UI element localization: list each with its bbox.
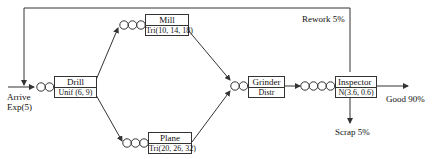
mill-station: Mill Tri(10, 14, 18): [145, 14, 189, 36]
plane-station-dist: Tri(20, 26, 32): [149, 144, 191, 154]
plane-queue-slot: [131, 139, 139, 147]
grinder-station-name: Grinder: [249, 77, 284, 88]
inspector-queue-slot: [326, 82, 334, 90]
plane-queue-slot: [140, 139, 148, 147]
plane-queue-slot: [123, 139, 131, 147]
drill-station-name: Drill: [55, 77, 96, 88]
inspector-station: Inspector N(3.6, 0.6): [335, 76, 377, 98]
mill-station-dist: Tri(10, 14, 18): [146, 26, 188, 36]
mill-queue-slot: [137, 21, 145, 29]
drill-station-dist: Unif (6, 9): [55, 88, 96, 98]
arrival-label: Arrive: [7, 92, 31, 102]
plane-station: Plane Tri(20, 26, 32): [148, 132, 192, 154]
inspector-queue-slot: [309, 82, 317, 90]
good-label: Good 90%: [386, 94, 425, 104]
inspector-station-name: Inspector: [336, 77, 376, 88]
grinder-station-dist: Distr: [249, 88, 284, 98]
drill-to-plane-line: [96, 95, 122, 141]
drill-queue-slot: [45, 83, 53, 91]
arrival-dist-label: Exp(5): [7, 102, 32, 112]
plane-to-grinder-line: [192, 91, 230, 142]
inspector-queue-slot: [318, 82, 326, 90]
plane-station-name: Plane: [149, 133, 191, 144]
inspector-queue-slot: [301, 82, 309, 90]
grinder-station: Grinder Distr: [248, 76, 285, 98]
grinder-queue-slot: [239, 82, 247, 90]
mill-queue-slot: [120, 21, 128, 29]
mill-queue-slot: [128, 21, 136, 29]
grinder-queue-slot: [231, 82, 239, 90]
mill-to-grinder-line: [188, 30, 230, 80]
drill-queue-slot: [37, 83, 45, 91]
inspector-station-dist: N(3.6, 0.6): [336, 88, 376, 98]
rework-label: Rework 5%: [302, 14, 345, 24]
mill-station-name: Mill: [146, 15, 188, 26]
scrap-label: Scrap 5%: [335, 127, 370, 137]
drill-to-mill-line: [96, 28, 118, 80]
drill-station: Drill Unif (6, 9): [54, 76, 97, 98]
